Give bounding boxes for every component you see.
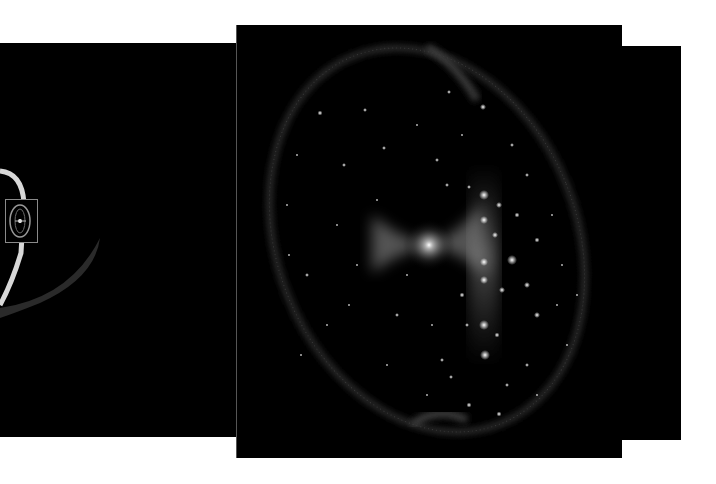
overview-render <box>0 43 240 437</box>
fold-arc-top <box>427 47 477 100</box>
fold-arc-bottom <box>412 414 467 425</box>
left-image-panel <box>0 43 240 437</box>
main-image-panel <box>236 25 622 458</box>
galaxy-render <box>237 25 622 458</box>
right-image-panel <box>620 46 681 440</box>
galaxy-core <box>403 219 455 271</box>
